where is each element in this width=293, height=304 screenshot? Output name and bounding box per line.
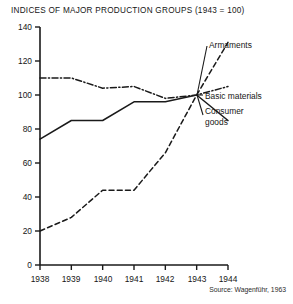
source-note: Source: Wagenführ, 1963 [209,286,286,293]
x-tick-label: 1938 [24,274,56,284]
consumer-goods-line-2: goods [205,117,228,127]
y-tick-label: 60 [6,158,32,168]
x-tick-label: 1939 [55,274,87,284]
consumer-goods-line-1: Consumer [205,106,244,116]
series-label-armaments: Armaments [209,40,252,51]
y-tick-label: 80 [6,124,32,134]
y-tick-label: 120 [6,56,32,66]
y-tick-label: 100 [6,90,32,100]
y-tick-label: 140 [6,22,32,32]
x-tick-label: 1943 [181,274,213,284]
x-tick-label: 1940 [87,274,119,284]
y-tick-label: 40 [6,192,32,202]
y-tick-label: 20 [6,226,32,236]
leader-armaments [197,46,207,95]
x-tick-label: 1942 [149,274,181,284]
series-label-consumer-goods: Consumer goods [205,106,244,127]
x-tick-label: 1941 [118,274,150,284]
series-line-armaments [40,42,228,231]
series-label-basic-materials: Basic materials [205,91,262,102]
x-tick-label: 1944 [212,274,244,284]
chart-figure: INDICES OF MAJOR PRODUCTION GROUPS (1943… [0,0,293,304]
series-line-consumer-goods [40,95,228,139]
y-tick-label: 0 [6,260,32,270]
